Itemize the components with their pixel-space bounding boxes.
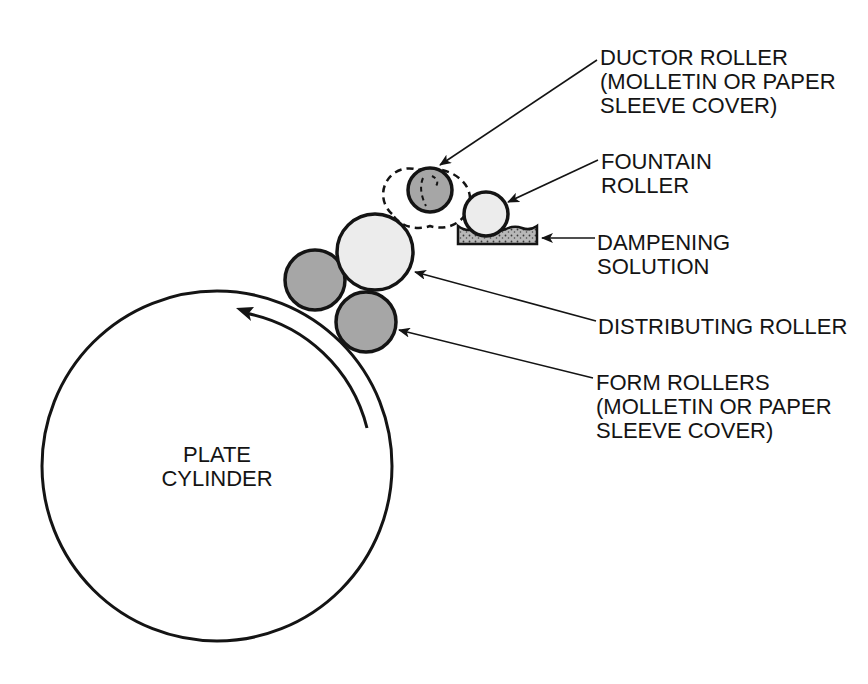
form-label-line3: SLEEVE COVER) <box>596 418 773 443</box>
ductor-leader-arrow <box>440 60 597 165</box>
label-form-rollers: FORM ROLLERS (MOLLETIN OR PAPER SLEEVE C… <box>596 370 832 443</box>
plate-cylinder-label-line2: CYLINDER <box>161 466 272 491</box>
dampening-label-line1: DAMPENING <box>597 230 730 255</box>
form-leader-arrow <box>399 330 593 378</box>
fountain-label-line2: ROLLER <box>601 173 689 198</box>
label-dampening-solution: DAMPENING SOLUTION <box>597 230 730 279</box>
dampening-system-diagram: PLATE CYLINDER DUCTOR ROLLER (MOLLETIN O… <box>0 0 868 684</box>
fountain-roller <box>464 192 508 236</box>
ductor-roller <box>408 168 452 212</box>
distributing-roller <box>337 214 413 290</box>
dampening-label-line2: SOLUTION <box>597 254 709 279</box>
distributing-leader-arrow <box>415 272 596 321</box>
ductor-label-line1: DUCTOR ROLLER <box>600 45 788 70</box>
ductor-label-line3: SLEEVE COVER) <box>600 93 777 118</box>
ductor-label-line2: (MOLLETIN OR PAPER <box>600 69 836 94</box>
form-label-line2: (MOLLETIN OR PAPER <box>596 394 832 419</box>
fountain-leader-arrow <box>508 160 598 202</box>
plate-cylinder-label-line1: PLATE <box>183 442 251 467</box>
plate-cylinder: PLATE CYLINDER <box>42 291 392 641</box>
form-roller-right <box>336 292 396 352</box>
ductor-roller-group <box>383 168 470 228</box>
fountain-assembly <box>458 192 537 244</box>
label-distributing-roller: DISTRIBUTING ROLLER <box>598 314 847 339</box>
distributing-label-line1: DISTRIBUTING ROLLER <box>598 314 847 339</box>
label-fountain-roller: FOUNTAIN ROLLER <box>601 149 712 198</box>
form-label-line1: FORM ROLLERS <box>596 370 770 395</box>
fountain-label-line1: FOUNTAIN <box>601 149 712 174</box>
label-ductor-roller: DUCTOR ROLLER (MOLLETIN OR PAPER SLEEVE … <box>600 45 836 118</box>
